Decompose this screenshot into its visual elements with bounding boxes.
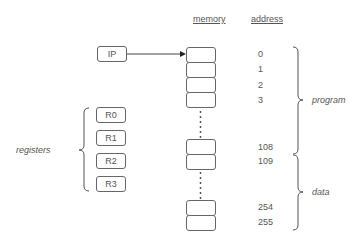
diagram-lines [0, 0, 361, 244]
address-label: 3 [258, 96, 263, 105]
address-label: 0 [258, 50, 263, 59]
memory-cell [186, 77, 216, 93]
address-label: 109 [258, 157, 273, 166]
address-label: 1 [258, 65, 263, 74]
register-r3: R3 [96, 176, 126, 192]
memory-cell [186, 62, 216, 78]
memory-cell [186, 47, 216, 63]
register-r1: R1 [96, 130, 126, 146]
data-bracket [293, 155, 303, 230]
memory-cell [186, 215, 216, 231]
address-label: 254 [258, 203, 273, 212]
memory-cell [186, 154, 216, 170]
program-bracket [293, 47, 303, 154]
registers-bracket [79, 108, 89, 191]
memory-cell [186, 92, 216, 108]
address-label: 2 [258, 81, 263, 90]
memory-ellipsis-1 [200, 111, 202, 138]
register-r0: R0 [96, 107, 126, 123]
memory-header: memory [193, 15, 226, 24]
memory-cell [186, 139, 216, 155]
memory-cell [186, 200, 216, 216]
data-region-label: data [312, 188, 330, 197]
memory-ellipsis-2 [200, 172, 202, 199]
address-label: 108 [258, 143, 273, 152]
register-r2: R2 [96, 153, 126, 169]
registers-label: registers [16, 146, 51, 155]
address-header: address [251, 15, 283, 24]
ip-register: IP [97, 46, 127, 62]
program-region-label: program [312, 96, 346, 105]
address-label: 255 [258, 218, 273, 227]
